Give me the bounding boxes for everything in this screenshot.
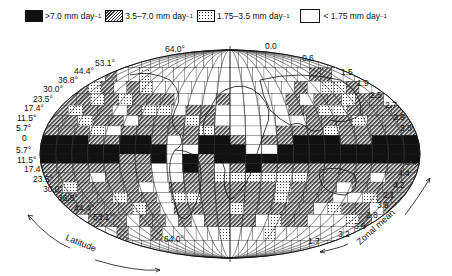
latitude-label-north: 17.4° [24, 103, 44, 113]
swatch-black [25, 10, 43, 22]
zonal-mean-label: 4.2 [393, 180, 405, 190]
latitude-label-north: 0 [22, 133, 27, 143]
latitude-label-north: 53.1° [95, 58, 115, 68]
legend-item-heavy: >7.0 mm day−1 [25, 10, 101, 22]
zonal-mean-label: 0.6 [302, 53, 314, 63]
zonal-mean-label: 1.5 [341, 67, 353, 77]
latitude-label-north: 11.5° [17, 113, 36, 123]
zonal-mean-label: 6.4 [405, 157, 417, 167]
zonal-mean-label: 4.4 [398, 168, 410, 178]
zonal-mean-label: 2.5 [370, 90, 382, 100]
swatch-white [300, 9, 320, 23]
latitude-label-south: 23.5° [33, 174, 53, 184]
latitude-label-north: 64.0° [165, 44, 185, 54]
zonal-mean-label: 2.1 [383, 190, 395, 200]
zonal-mean-label: 2.9 [393, 112, 405, 122]
legend-item-moderate: 3.5–7.0 mm day−1 [105, 10, 193, 22]
legend-item-light: 1.75–3.5 mm day−1 [197, 10, 290, 22]
latitude-label-north: 5.7° [16, 123, 31, 133]
latitude-label-south: 64.0° [164, 234, 184, 244]
zonal-mean-label: 2.7 [385, 100, 397, 110]
zonal-mean-label: 1.9 [357, 78, 369, 88]
legend-item-dry: < 1.75 mm day−1 [294, 9, 387, 23]
latitude-label-south: 17.4° [24, 164, 44, 174]
latitude-label-south: 44.4° [74, 203, 94, 213]
latitude-label-south: 5.7° [16, 145, 31, 155]
zonal-mean-label: 1.7 [308, 236, 320, 246]
zonal-mean-label: 3.8 [400, 123, 412, 133]
zonal-mean-label: 3.2 [338, 229, 350, 239]
latitude-label-south: 53.1° [93, 212, 113, 222]
swatch-hatch [105, 10, 123, 22]
zonal-mean-label: 0.0 [265, 41, 277, 51]
zonal-mean-label: 3.6 [405, 133, 417, 143]
legend: >7.0 mm day−1 3.5–7.0 mm day−1 1.75–3.5 … [25, 9, 391, 23]
latitude-label-north: 30.0° [43, 84, 63, 94]
zonal-mean-label: 5.5 [405, 143, 417, 153]
swatch-dots [197, 10, 215, 22]
latitude-label-south: 36.8° [58, 193, 78, 203]
